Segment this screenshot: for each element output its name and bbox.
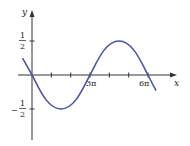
- y-axis-label: y: [21, 7, 28, 17]
- y-axis-arrow-icon: [30, 10, 35, 17]
- x-axis-arrow-icon: [170, 73, 177, 78]
- tick-label-half-den: 2: [20, 42, 25, 51]
- chart: y x 3π 6π 1 2 − 1 2: [0, 0, 190, 146]
- tick-label-3pi: 3π: [86, 79, 96, 88]
- x-axis-label: x: [174, 78, 179, 88]
- tick-label-neg-half-den: 2: [20, 110, 25, 119]
- tick-label-neg-half-num: 1: [20, 99, 25, 108]
- tick-label-half-num: 1: [20, 31, 25, 40]
- tick-label-neg-sign: −: [11, 106, 18, 115]
- tick-label-6pi: 6π: [139, 79, 149, 88]
